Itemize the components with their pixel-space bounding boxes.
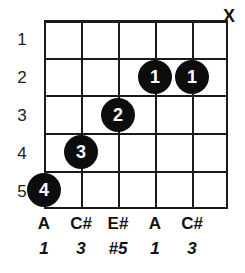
interval-label: 3 bbox=[61, 240, 101, 257]
finger-dot: 3 bbox=[64, 135, 98, 169]
fret-number: 2 bbox=[8, 69, 36, 86]
interval-label: 1 bbox=[135, 240, 175, 257]
string-line bbox=[155, 20, 157, 209]
fret-line bbox=[44, 95, 228, 97]
note-label: C# bbox=[172, 215, 212, 232]
fretboard-grid bbox=[44, 20, 228, 209]
string-line bbox=[192, 20, 194, 209]
fret-line bbox=[44, 58, 228, 60]
string-line bbox=[81, 20, 83, 209]
finger-dot: 4 bbox=[27, 173, 61, 207]
note-label: A bbox=[24, 215, 64, 232]
finger-dot: 1 bbox=[175, 60, 209, 94]
interval-label: #5 bbox=[98, 240, 138, 257]
fret-line bbox=[44, 133, 228, 135]
fret-line bbox=[44, 20, 228, 23]
chord-diagram: 1 2 3 4 5 X 1 1 2 3 4 A C# E# A C# 1 3 #… bbox=[0, 0, 245, 273]
string-line bbox=[226, 20, 228, 209]
note-label: C# bbox=[61, 215, 101, 232]
note-label: E# bbox=[98, 215, 138, 232]
fret-number: 3 bbox=[8, 107, 36, 124]
fret-number: 4 bbox=[8, 145, 36, 162]
finger-dot: 1 bbox=[138, 60, 172, 94]
fret-number: 1 bbox=[8, 31, 36, 48]
finger-dot: 2 bbox=[101, 98, 135, 132]
note-label: A bbox=[135, 215, 175, 232]
fret-line bbox=[44, 171, 228, 173]
fret-line bbox=[44, 207, 228, 209]
interval-label: 3 bbox=[172, 240, 212, 257]
interval-label: 1 bbox=[24, 240, 64, 257]
